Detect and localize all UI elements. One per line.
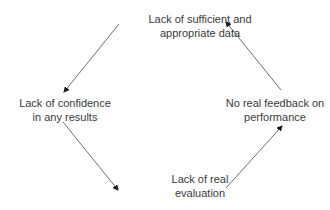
node-lack-of-confidence: Lack of confidence in any results	[0, 96, 130, 124]
node-label-line: Lack of sufficient and	[130, 12, 270, 26]
node-label-line: appropriate data	[130, 26, 270, 40]
node-label-line: No real feedback on	[210, 96, 330, 110]
node-label-line: performance	[210, 110, 330, 124]
node-label-line: in any results	[0, 110, 130, 124]
arrow-left-to-bottom	[63, 122, 118, 190]
arrow-top-to-left	[64, 24, 119, 92]
node-lack-of-evaluation: Lack of real evaluation	[140, 172, 260, 200]
node-label-line: Lack of real	[140, 172, 260, 186]
node-label-line: evaluation	[140, 186, 260, 200]
node-label-line: Lack of confidence	[0, 96, 130, 110]
node-no-feedback: No real feedback on performance	[210, 96, 330, 124]
node-lack-of-data: Lack of sufficient and appropriate data	[130, 12, 270, 40]
